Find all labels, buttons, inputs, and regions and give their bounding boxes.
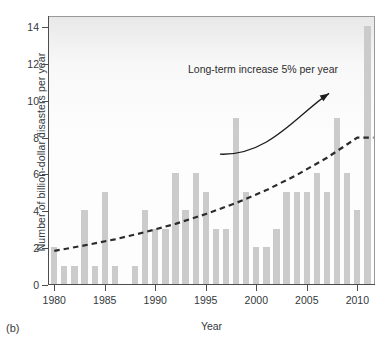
bar-2004 bbox=[294, 192, 300, 284]
x-axis-title: Year bbox=[48, 320, 375, 332]
bar-1980 bbox=[51, 247, 57, 284]
y-tick-label-0: 0 bbox=[33, 279, 39, 291]
bar-1996 bbox=[213, 229, 219, 284]
bar-1985 bbox=[102, 192, 108, 284]
y-tick-label-12: 12 bbox=[27, 58, 39, 70]
bar-2011 bbox=[364, 26, 370, 284]
x-tick-mark-1995 bbox=[206, 285, 207, 291]
bar-2007 bbox=[324, 192, 330, 284]
bar-1990 bbox=[152, 229, 158, 284]
x-tick-label-2005: 2005 bbox=[295, 294, 318, 306]
x-tick-label-1985: 1985 bbox=[93, 294, 116, 306]
x-tick-label-1990: 1990 bbox=[144, 294, 167, 306]
panel-letter-label: (b) bbox=[6, 322, 19, 334]
axis-line-left bbox=[48, 16, 49, 285]
x-tick-mark-2005 bbox=[307, 285, 308, 291]
plot-area: 02468101214 1980198519901995200020052010… bbox=[48, 16, 375, 285]
x-tick-label-2010: 2010 bbox=[346, 294, 369, 306]
bar-2006 bbox=[314, 173, 320, 284]
bar-1995 bbox=[203, 192, 209, 284]
bar-2005 bbox=[304, 192, 310, 284]
y-tick-label-2: 2 bbox=[33, 242, 39, 254]
axis-line-top bbox=[48, 16, 375, 17]
axis-line-bottom bbox=[48, 284, 375, 285]
bar-1992 bbox=[172, 173, 178, 284]
y-tick-label-4: 4 bbox=[33, 205, 39, 217]
bar-1993 bbox=[182, 210, 188, 284]
y-tick-label-8: 8 bbox=[33, 132, 39, 144]
bar-1994 bbox=[193, 173, 199, 284]
bar-1989 bbox=[142, 210, 148, 284]
x-tick-mark-2010 bbox=[357, 285, 358, 291]
x-tick-mark-1980 bbox=[54, 285, 55, 291]
x-tick-mark-1990 bbox=[155, 285, 156, 291]
x-tick-label-1995: 1995 bbox=[194, 294, 217, 306]
y-tick-label-6: 6 bbox=[33, 168, 39, 180]
x-tick-label-2000: 2000 bbox=[245, 294, 268, 306]
bar-2000 bbox=[253, 247, 259, 284]
x-tick-mark-1985 bbox=[105, 285, 106, 291]
x-tick-mark-2000 bbox=[256, 285, 257, 291]
bar-2010 bbox=[354, 210, 360, 284]
x-tick-label-1980: 1980 bbox=[43, 294, 66, 306]
bar-1998 bbox=[233, 118, 239, 284]
axis-line-right bbox=[374, 16, 375, 285]
bar-1997 bbox=[223, 229, 229, 284]
bar-2008 bbox=[334, 118, 340, 284]
bar-1999 bbox=[243, 192, 249, 284]
bar-1988 bbox=[132, 266, 138, 284]
bar-1991 bbox=[162, 229, 168, 284]
bar-2003 bbox=[283, 192, 289, 284]
trend-annotation-label: Long-term increase 5% per year bbox=[188, 63, 338, 75]
bar-2002 bbox=[273, 229, 279, 284]
figure-panel-b: Number of billion-dollar disasters per y… bbox=[0, 0, 391, 347]
bar-1981 bbox=[61, 266, 67, 284]
y-tick-label-10: 10 bbox=[27, 95, 39, 107]
bar-2001 bbox=[263, 247, 269, 284]
y-tick-label-14: 14 bbox=[27, 21, 39, 33]
y-tick-mark-0 bbox=[42, 285, 48, 286]
bar-1984 bbox=[92, 266, 98, 284]
bar-2009 bbox=[344, 173, 350, 284]
bar-1982 bbox=[71, 266, 77, 284]
bar-1983 bbox=[81, 210, 87, 284]
bar-1986 bbox=[112, 266, 118, 284]
